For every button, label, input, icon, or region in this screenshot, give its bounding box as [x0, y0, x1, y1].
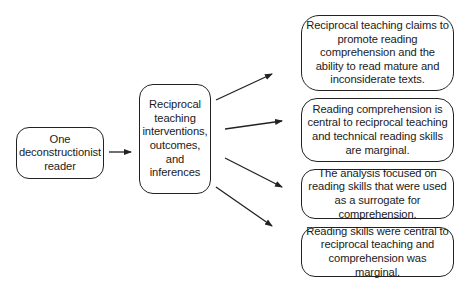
arrow-middle-to-outcome-3: [225, 158, 282, 187]
node-outcome-2: Reading comprehension is central to reci…: [301, 98, 454, 162]
node-outcome-4: Reading skills were central to reciproca…: [301, 227, 454, 277]
node-middle-label: Reciprocal teaching interventions, outco…: [142, 98, 207, 180]
node-outcome-3-label: The analysis focused on reading skills t…: [305, 167, 450, 221]
node-outcome-3: The analysis focused on reading skills t…: [301, 169, 454, 219]
arrow-middle-to-outcome-1: [216, 74, 272, 100]
diagram-canvas: One deconstructionist reader Reciprocal …: [0, 0, 464, 288]
node-outcome-1: Reciprocal teaching claims to promote re…: [301, 15, 454, 91]
node-outcome-2-label: Reading comprehension is central to reci…: [305, 103, 450, 157]
arrow-middle-to-outcome-2: [225, 121, 282, 129]
arrow-middle-to-outcome-4: [216, 187, 272, 226]
node-middle: Reciprocal teaching interventions, outco…: [139, 84, 211, 194]
node-source-label: One deconstructionist reader: [19, 133, 101, 174]
node-outcome-1-label: Reciprocal teaching claims to promote re…: [305, 19, 450, 87]
node-source: One deconstructionist reader: [16, 127, 104, 179]
node-outcome-4-label: Reading skills were central to reciproca…: [305, 225, 450, 279]
